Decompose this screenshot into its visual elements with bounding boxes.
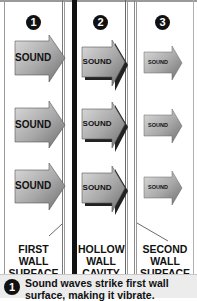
arrow-label: SOUND: [15, 119, 49, 130]
arrow-label: SOUND: [82, 57, 112, 66]
caption-text: Sound waves strike first wall surface, m…: [25, 277, 169, 301]
arrow-label: SOUND: [82, 183, 112, 192]
arrow-label: SOUND: [144, 184, 172, 190]
caption-box: 1 Sound waves strike first wall surface,…: [0, 274, 197, 298]
arrow-label: SOUND: [144, 59, 172, 65]
arrow-label: SOUND: [15, 180, 49, 191]
arrow-label: SOUND: [144, 122, 172, 128]
arrow-label: SOUND: [82, 119, 112, 128]
arrow-label: SOUND: [15, 52, 49, 63]
sound-arrows: [0, 0, 197, 274]
caption-step-number: 1: [4, 279, 20, 295]
pointer-line: [49, 224, 62, 236]
pointer-line: [137, 223, 168, 241]
